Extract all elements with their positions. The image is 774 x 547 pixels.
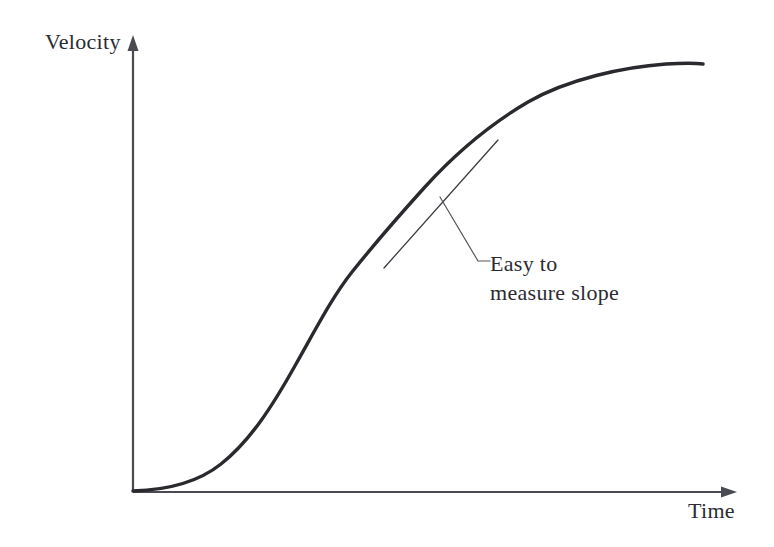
secant-line: [384, 140, 498, 268]
y-axis-label: Velocity: [45, 29, 121, 55]
x-axis-arrowhead: [721, 487, 737, 498]
slope-annotation: Easy to measure slope: [490, 249, 619, 307]
annotation-line-1: Easy to: [490, 249, 619, 278]
annotation-leader-line: [440, 197, 490, 261]
x-axis-label: Time: [688, 498, 735, 524]
y-axis-arrowhead: [128, 35, 139, 51]
annotation-line-2: measure slope: [490, 278, 619, 307]
velocity-time-figure: [0, 0, 774, 547]
